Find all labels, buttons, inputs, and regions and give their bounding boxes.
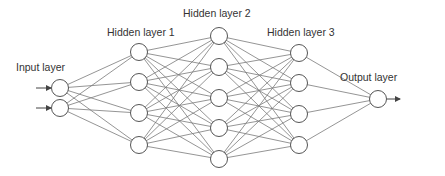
- node-layer4-0: [370, 91, 387, 108]
- edge: [60, 108, 139, 113]
- edge: [60, 88, 139, 145]
- node-layer2-3: [211, 120, 228, 137]
- node-layer1-3: [131, 137, 148, 154]
- edge: [139, 52, 219, 67]
- label-hidden-layer-3: Hidden layer 3: [267, 26, 335, 38]
- node-layer3-1: [291, 75, 308, 92]
- node-layer1-1: [131, 74, 148, 91]
- edge: [139, 36, 219, 145]
- node-layer3-0: [291, 45, 308, 62]
- node-layer2-2: [211, 90, 228, 107]
- edge: [299, 99, 378, 145]
- node-layer3-3: [291, 137, 308, 154]
- edge: [219, 36, 299, 53]
- node-layer0-1: [52, 100, 69, 117]
- neural-network-diagram: Input layerHidden layer 1Hidden layer 2H…: [0, 0, 445, 176]
- edge: [60, 88, 139, 113]
- edge: [299, 83, 378, 99]
- network-nodes: [52, 28, 387, 168]
- edge: [60, 82, 139, 108]
- node-layer1-0: [131, 44, 148, 61]
- edge: [139, 36, 219, 52]
- node-layer2-0: [211, 28, 228, 45]
- edge: [139, 113, 219, 128]
- label-input-layer: Input layer: [16, 61, 66, 73]
- edge: [60, 52, 139, 108]
- node-layer0-0: [52, 80, 69, 97]
- label-hidden-layer-2: Hidden layer 2: [183, 7, 251, 19]
- edge: [219, 53, 299, 128]
- edge: [60, 108, 139, 145]
- label-hidden-layer-1: Hidden layer 1: [107, 26, 175, 38]
- layer-labels: Input layerHidden layer 1Hidden layer 2H…: [16, 7, 398, 83]
- edge: [139, 36, 219, 113]
- edge: [299, 99, 378, 114]
- node-layer1-2: [131, 105, 148, 122]
- label-output-layer: Output layer: [340, 71, 398, 83]
- node-layer2-1: [211, 59, 228, 76]
- node-layer3-2: [291, 106, 308, 123]
- node-layer2-4: [211, 151, 228, 168]
- edge: [219, 53, 299, 159]
